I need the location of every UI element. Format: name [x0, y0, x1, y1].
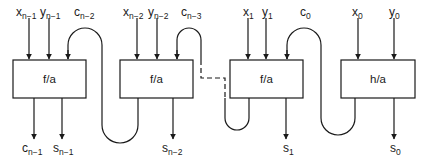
label-x-n-2: xn−2: [123, 5, 144, 21]
half-adder-block-0: h/a: [341, 60, 415, 98]
svg-text:yn−1: yn−1: [40, 5, 61, 21]
ripple-carry-adder-diagram: f/a xn−1 yn−1 cn−2 cn−1 sn−1 f/a xn−2 yn…: [0, 0, 423, 155]
label-y-n-1: yn−1: [40, 5, 61, 21]
carry-wire-c-1-out: [225, 98, 249, 130]
label-x-0: x0: [352, 5, 363, 21]
block-label: h/a: [370, 73, 387, 85]
carry-wire-dashed-gap: [201, 60, 225, 98]
label-y-n-2: yn−2: [148, 5, 169, 21]
label-y-1: y1: [262, 5, 273, 21]
svg-text:cn−2: cn−2: [74, 5, 95, 21]
svg-text:cn−3: cn−3: [181, 5, 202, 21]
svg-text:y0: y0: [389, 5, 400, 21]
svg-text:cn−1: cn−1: [22, 141, 43, 155]
label-c-n-2: cn−2: [74, 5, 95, 21]
svg-text:x0: x0: [352, 5, 363, 21]
label-s-n-1: sn−1: [53, 141, 74, 155]
carry-wire-c-n-3: [177, 28, 201, 60]
svg-text:y1: y1: [262, 5, 273, 21]
svg-text:sn−1: sn−1: [53, 141, 74, 155]
svg-text:yn−2: yn−2: [148, 5, 169, 21]
label-x-n-1: xn−1: [16, 5, 37, 21]
full-adder-block-n-2: f/a: [120, 60, 193, 98]
full-adder-block-n-1: f/a: [13, 60, 86, 98]
label-x-1: x1: [243, 5, 254, 21]
block-label: f/a: [260, 73, 273, 85]
label-s-n-2: sn−2: [162, 141, 183, 155]
full-adder-block-1: f/a: [230, 60, 303, 98]
svg-text:x1: x1: [243, 5, 254, 21]
label-c-n-3: cn−3: [181, 5, 202, 21]
label-s-0: s0: [390, 141, 401, 155]
svg-text:sn−2: sn−2: [162, 141, 183, 155]
label-c-0: c0: [300, 5, 311, 21]
label-s-1: s1: [283, 141, 294, 155]
block-label: f/a: [43, 73, 56, 85]
svg-text:c0: c0: [300, 5, 311, 21]
label-y-0: y0: [389, 5, 400, 21]
label-c-n-1: cn−1: [22, 141, 43, 155]
svg-text:s0: s0: [390, 141, 401, 155]
block-label: f/a: [150, 73, 163, 85]
svg-text:s1: s1: [283, 141, 294, 155]
svg-text:xn−2: xn−2: [123, 5, 144, 21]
svg-text:xn−1: xn−1: [16, 5, 37, 21]
